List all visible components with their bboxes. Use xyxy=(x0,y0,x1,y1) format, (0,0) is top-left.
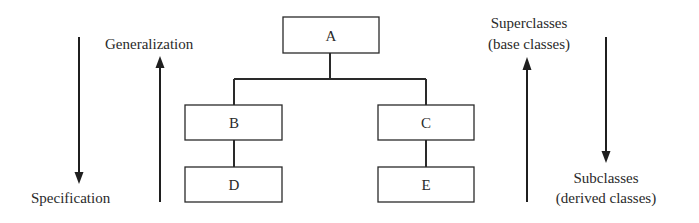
specification-label: Specification xyxy=(31,190,111,206)
superclasses-label: Superclasses xyxy=(491,15,568,31)
class-node-e-label: E xyxy=(421,177,430,193)
class-node-e: E xyxy=(378,167,474,202)
class-node-a: A xyxy=(283,17,379,53)
derived-classes-label: (derived classes) xyxy=(556,190,656,207)
subclasses-arrow xyxy=(602,37,611,163)
subclasses-label: Subclasses xyxy=(574,170,639,186)
class-node-d: D xyxy=(185,167,282,202)
class-node-d-label: D xyxy=(229,177,240,193)
class-node-b-label: B xyxy=(229,115,239,131)
generalization-label: Generalization xyxy=(105,36,194,52)
class-node-a-label: A xyxy=(326,28,337,44)
superclasses-arrow xyxy=(523,57,532,202)
class-node-c-label: C xyxy=(421,115,431,131)
class-node-b: B xyxy=(185,105,282,140)
generalization-arrow xyxy=(156,56,165,202)
class-node-c: C xyxy=(378,105,474,140)
class-hierarchy-diagram: Specification Generalization A B C D E xyxy=(0,0,699,223)
base-classes-label: (base classes) xyxy=(488,36,570,53)
specification-arrow xyxy=(75,37,84,184)
